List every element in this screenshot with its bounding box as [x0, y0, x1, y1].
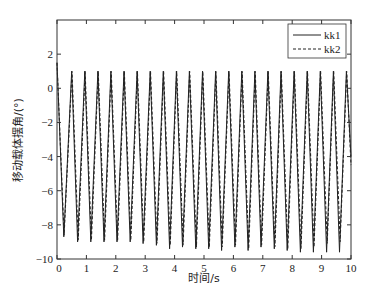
- x-tick-label: 4: [172, 262, 178, 274]
- y-tick-label: −10: [36, 253, 54, 265]
- x-tick-label: 2: [113, 262, 119, 274]
- y-tick-label: −2: [41, 116, 53, 128]
- y-axis-title: 移动载体摆角/(°): [11, 98, 25, 182]
- x-axis-title: 时间/s: [188, 272, 220, 285]
- x-tick-label: 10: [346, 262, 358, 274]
- x-tick-label: 8: [289, 262, 295, 274]
- y-tick-label: −8: [41, 219, 53, 231]
- x-tick-label: 6: [231, 262, 237, 274]
- legend-label-kk2: kk2: [324, 43, 341, 55]
- chart: 012345678910 −10−8−6−4−202 时间/s 移动载体摆角/(…: [0, 0, 372, 296]
- y-tick-label: −4: [41, 151, 53, 163]
- x-tick-label: 1: [84, 262, 90, 274]
- x-tick-label: 7: [260, 262, 266, 274]
- y-tick-label: 0: [48, 82, 54, 94]
- x-tick-label: 3: [142, 262, 148, 274]
- legend-label-kk1: kk1: [324, 29, 341, 41]
- y-tick-label: −6: [41, 185, 53, 197]
- y-tick-label: 2: [48, 48, 54, 60]
- x-tick-label: 0: [56, 262, 62, 274]
- legend: kk1 kk2: [288, 24, 346, 58]
- x-tick-label: 9: [319, 262, 325, 274]
